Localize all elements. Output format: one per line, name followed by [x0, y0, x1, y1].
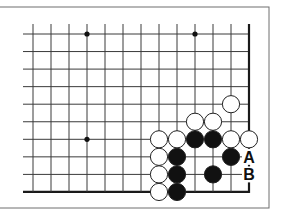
white-stone-icon	[222, 96, 239, 113]
black-stone-icon	[204, 166, 221, 183]
white-stone-icon	[168, 131, 185, 148]
white-stone-icon	[204, 113, 221, 130]
white-stone-icon	[222, 131, 239, 148]
star-point-icon	[84, 31, 89, 36]
star-point-icon	[192, 31, 197, 36]
black-stone-icon	[186, 131, 203, 148]
black-stone-icon	[168, 148, 185, 165]
white-stone-icon	[150, 166, 167, 183]
black-stone-icon	[168, 183, 185, 200]
stones	[150, 96, 257, 201]
white-stone-icon	[150, 148, 167, 165]
black-stone-icon	[222, 148, 239, 165]
white-stone-icon	[186, 113, 203, 130]
white-stone-icon	[150, 183, 167, 200]
black-stone-icon	[204, 131, 221, 148]
go-board-diagram: AB	[0, 0, 283, 218]
black-stone-icon	[168, 166, 185, 183]
white-stone-icon	[240, 131, 257, 148]
point-labels: AB	[242, 149, 256, 184]
point-label-a: A	[243, 149, 255, 166]
point-label-b: B	[243, 166, 255, 183]
white-stone-icon	[150, 131, 167, 148]
star-point-icon	[84, 137, 89, 142]
